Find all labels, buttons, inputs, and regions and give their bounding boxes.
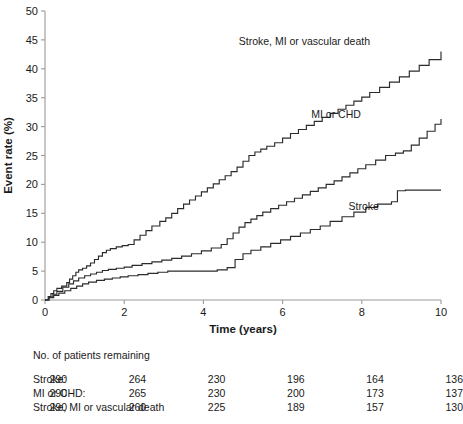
series-curve-3 [45,190,441,300]
y-axis-title: Event rate (%) [2,117,14,194]
series-curve-2 [45,119,441,300]
x-tick-label: 8 [359,306,365,318]
x-tick-label: 4 [200,306,206,318]
risk-cell: 230 [201,386,225,400]
risk-cell: 157 [360,400,384,414]
y-tick-label: 50 [26,5,38,17]
series-label: MI or CHD [311,108,361,120]
risk-cell: 225 [201,400,225,414]
y-tick-label: 40 [26,63,38,75]
axes: 051015202530354045500246810 [26,5,447,318]
y-tick-label: 5 [32,265,38,277]
y-tick-label: 25 [26,150,38,162]
risk-cell: 264 [122,372,146,386]
risk-cell: 137 [439,386,463,400]
x-tick-label: 2 [121,306,127,318]
risk-cell: 130 [439,400,463,414]
series-labels: Stroke, MI or vascular deathMI or CHDStr… [239,35,379,212]
chart-svg: 051015202530354045500246810 Stroke, MI o… [0,0,452,340]
risk-table-row: Stroke:290264230196164136 [0,372,452,386]
risk-table-caption: No. of patients remaining [33,349,150,361]
curves [45,51,441,300]
series-curve-1 [45,51,441,300]
risk-cell: 260 [122,400,146,414]
y-tick-label: 45 [26,34,38,46]
x-tick-label: 0 [42,306,48,318]
y-tick-label: 15 [26,207,38,219]
x-axis-title: Time (years) [209,323,277,335]
y-tick-label: 10 [26,236,38,248]
risk-cell: 290 [43,400,67,414]
x-tick-label: 6 [280,306,286,318]
risk-cell: 196 [281,372,305,386]
risk-cell: 290 [43,372,67,386]
risk-cell: 230 [201,372,225,386]
chart-area: 051015202530354045500246810 Stroke, MI o… [0,0,452,340]
series-label: Stroke, MI or vascular death [239,35,370,47]
risk-cell: 189 [281,400,305,414]
risk-table-row: MI or CHD:290265230200173137 [0,386,452,400]
axis-titles: Time (years)Event rate (%) [2,117,277,335]
risk-cell: 164 [360,372,384,386]
y-tick-label: 20 [26,178,38,190]
x-tick-label: 10 [435,306,447,318]
y-tick-label: 0 [32,294,38,306]
risk-cell: 200 [281,386,305,400]
risk-cell: 265 [122,386,146,400]
series-label: Stroke [349,200,380,212]
y-tick-label: 35 [26,92,38,104]
risk-table-row: Stroke, MI or vascular death290260225189… [0,400,452,414]
risk-cell: 173 [360,386,384,400]
numbers-at-risk-table: No. of patients remaining Stroke:2902642… [0,340,452,424]
risk-cell: 136 [439,372,463,386]
risk-table-rows: Stroke:290264230196164136MI or CHD:29026… [0,372,452,414]
y-tick-label: 30 [26,121,38,133]
risk-cell: 290 [43,386,67,400]
